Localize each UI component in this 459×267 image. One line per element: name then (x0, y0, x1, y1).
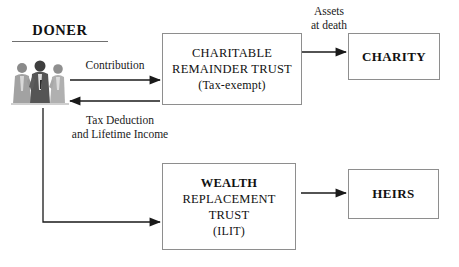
person-right (49, 64, 65, 104)
edge-label-assets-at-death-line-1: Assets (293, 4, 365, 18)
node-crt-line-3: (Tax-exempt) (198, 77, 266, 93)
edge-label-tax-deduction-line-2: and Lifetime Income (50, 127, 190, 141)
node-heirs-line-1: HEIRS (372, 186, 414, 202)
node-heirs[interactable]: HEIRS (348, 169, 439, 219)
node-charity[interactable]: CHARITY (348, 33, 440, 80)
node-wealth-line-4: (ILIT) (213, 223, 245, 239)
donor-underline (12, 41, 108, 42)
node-crt-line-1: CHARITABLE (192, 45, 272, 61)
edge-label-tax-deduction-line-1: Tax Deduction (50, 113, 190, 127)
node-wealth-line-1: WEALTH (201, 175, 257, 191)
edge-label-assets-at-death-line-2: at death (293, 18, 365, 32)
person-left (13, 63, 33, 104)
node-crt-line-2: REMAINDER TRUST (172, 61, 292, 77)
edge-label-tax-deduction: Tax Deduction and Lifetime Income (50, 113, 190, 141)
person-center (29, 61, 50, 105)
charitable-remainder-trust-diagram: DONER Contribution Tax Deduction and Lif… (0, 0, 459, 267)
node-wealth-replacement-trust[interactable]: WEALTH REPLACEMENT TRUST (ILIT) (162, 163, 296, 250)
node-charity-line-1: CHARITY (362, 49, 426, 65)
node-wealth-line-3: TRUST (209, 207, 250, 223)
donor-title: DONER (12, 22, 108, 39)
edge-label-contribution: Contribution (70, 58, 160, 72)
edge-label-assets-at-death: Assets at death (293, 4, 365, 32)
edge-label-contribution-line-1: Contribution (86, 59, 145, 71)
node-wealth-line-2: REPLACEMENT (182, 191, 275, 207)
node-charitable-remainder-trust[interactable]: CHARITABLE REMAINDER TRUST (Tax-exempt) (162, 33, 302, 105)
donor-people-image (8, 57, 76, 107)
